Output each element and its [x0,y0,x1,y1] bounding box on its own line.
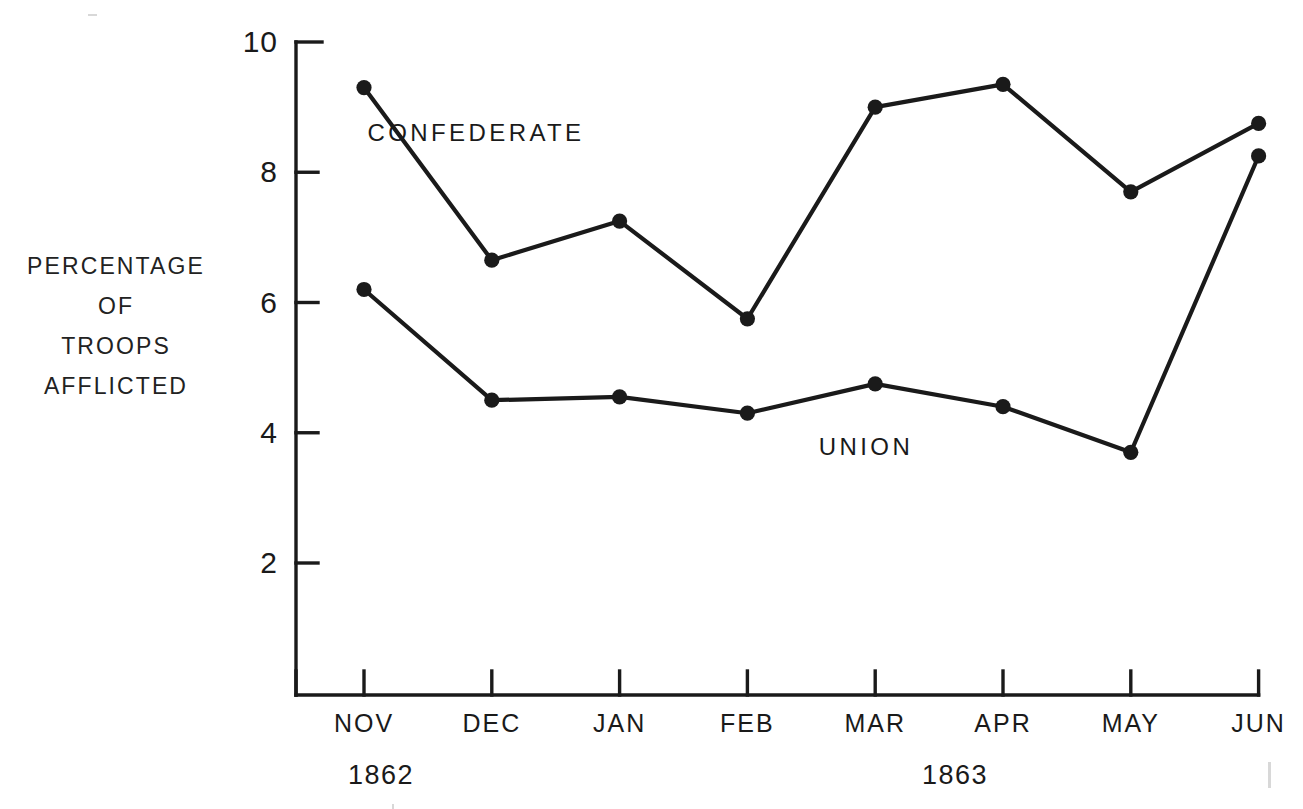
x-tick-label: JAN [593,709,646,738]
y-tick-label: 4 [222,416,278,450]
data-point-marker [484,393,499,408]
y-tick-label: 6 [222,286,278,320]
data-point-marker [356,282,371,297]
x-tick-label: JUN [1231,709,1286,738]
data-point-marker [868,376,883,391]
chart-figure: PERCENTAGE OF TROOPS AFFLICTED 108642 NO… [0,0,1303,809]
x-tick-label: NOV [334,709,394,738]
x-tick-label: MAR [844,709,906,738]
year-label: 1862 [348,760,414,791]
series-label-confederate: CONFEDERATE [368,119,585,147]
data-point-marker [1251,116,1266,131]
x-tick-label: FEB [720,709,775,738]
data-point-marker [740,406,755,421]
year-label: 1863 [922,760,988,791]
y-tick-label: 8 [222,155,278,189]
x-tick-label: MAY [1102,709,1160,738]
plot-area [0,0,1303,809]
scan-artifact-top [88,14,97,16]
series-line [364,156,1259,452]
scan-artifact-bottom [392,804,394,809]
x-axis-ticks [296,671,1259,695]
data-point-marker [995,399,1010,414]
data-point-marker [1123,184,1138,199]
data-point-marker [868,100,883,115]
data-point-marker [1123,445,1138,460]
y-axis-ticks [296,42,322,695]
data-series-confederate [356,77,1266,327]
data-point-marker [612,389,627,404]
data-point-marker [1251,148,1266,163]
data-point-marker [740,311,755,326]
data-point-marker [484,253,499,268]
data-point-marker [612,213,627,228]
data-point-marker [356,80,371,95]
data-point-marker [995,77,1010,92]
x-tick-label: APR [974,709,1031,738]
scan-artifact-bottom-right [1268,762,1271,788]
y-tick-label: 10 [222,25,278,59]
y-tick-label: 2 [222,546,278,580]
x-tick-label: DEC [462,709,521,738]
series-label-union: UNION [819,433,913,461]
